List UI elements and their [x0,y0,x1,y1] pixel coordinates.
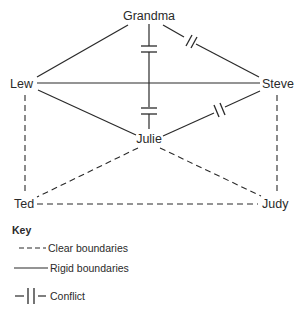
legend-label-rigid: Rigid boundaries [50,262,129,274]
family-boundary-diagram: Grandma Lew Steve Julie Ted Judy Key Cle… [0,0,298,311]
conflict-marker-grandma-julie-bottom [141,108,157,114]
node-lew: Lew [10,77,34,91]
edge-grandma-lew [37,25,128,77]
node-julie: Julie [136,132,162,146]
edge-julie-ted [37,148,138,197]
edge-grandma-steve-a [163,25,184,37]
legend-label-conflict: Conflict [50,290,85,302]
legend: Key Clear boundaries Rigid boundaries Co… [12,224,129,304]
rigid-edges [37,24,260,136]
edge-steve-julie-a [225,91,260,107]
legend-item-conflict: Conflict [15,288,85,304]
legend-item-clear: Clear boundaries [19,242,128,254]
legend-label-clear: Clear boundaries [48,242,128,254]
edge-lew-julie [38,90,136,135]
conflict-marker-steve-julie [214,103,225,117]
conflict-marker-grandma-steve [186,35,197,48]
node-judy: Judy [262,197,289,211]
clear-edges [25,95,277,204]
edge-grandma-steve-b [196,44,259,77]
legend-item-rigid: Rigid boundaries [14,262,129,274]
node-grandma: Grandma [123,9,175,23]
node-steve: Steve [262,77,294,91]
conflict-marker-grandma-julie-top [141,46,157,52]
node-labels: Grandma Lew Steve Julie Ted Judy [10,9,294,211]
legend-title: Key [12,224,31,236]
edge-steve-julie-b [163,113,214,136]
edge-julie-judy [160,148,261,196]
conflict-markers [141,35,225,117]
conflict-bars-icon [15,288,46,304]
node-ted: Ted [14,197,34,211]
